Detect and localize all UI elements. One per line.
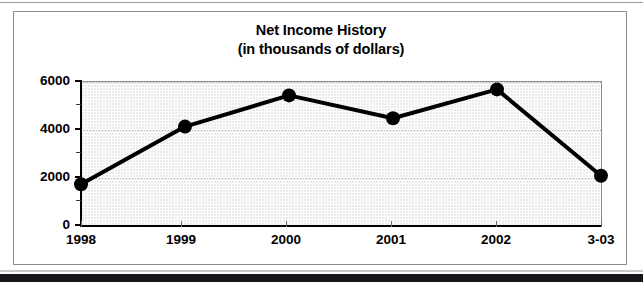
data-point-2002 — [490, 82, 504, 96]
series-markers-net-income — [74, 82, 608, 191]
data-series-layer — [14, 12, 628, 266]
series-line-net-income — [81, 89, 601, 184]
data-point-2000 — [282, 88, 296, 102]
chart-figure-frame: Net Income History (in thousands of doll… — [13, 11, 627, 265]
data-point-1999 — [178, 120, 192, 134]
data-point-1998 — [74, 177, 88, 191]
data-point-3-03 — [594, 169, 608, 183]
page-bottom-band — [0, 274, 643, 282]
page-bottom-edge — [0, 270, 643, 272]
data-point-2001 — [386, 111, 400, 125]
page-top-rule — [0, 2, 643, 3]
